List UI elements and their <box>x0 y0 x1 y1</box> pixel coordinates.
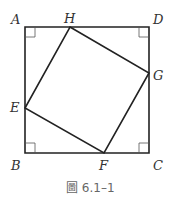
right-angle-mark-a <box>25 27 35 37</box>
label-g: G <box>153 68 163 83</box>
right-angle-mark-b <box>25 143 35 153</box>
inner-square-hgfe <box>25 27 149 153</box>
label-d: D <box>152 12 164 27</box>
square-diagram: A H D G E B F C 圖 6.1–1 <box>0 0 177 201</box>
right-angle-mark-c <box>139 143 149 153</box>
label-h: H <box>63 11 76 26</box>
label-a: A <box>10 12 20 27</box>
figure-caption: 圖 6.1–1 <box>66 181 115 195</box>
label-c: C <box>153 158 163 173</box>
figure: A H D G E B F C 圖 6.1–1 <box>0 0 177 201</box>
outer-square-abcd <box>25 27 149 153</box>
label-f: F <box>98 158 109 173</box>
right-angle-mark-d <box>139 27 149 37</box>
label-b: B <box>10 158 21 173</box>
label-e: E <box>9 100 20 115</box>
